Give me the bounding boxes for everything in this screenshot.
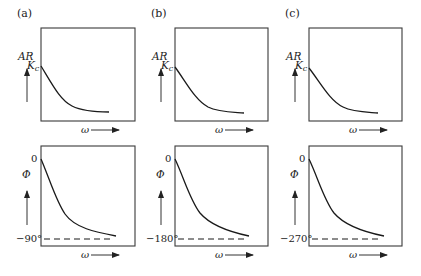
amplitude-ratio-plot: AR Kc ω [151,28,268,135]
phase-asymptote-label: −90° [16,233,42,244]
phi-axis-label: Φ [156,168,165,180]
amplitude-ratio-plot: AR Kc ω [17,28,135,135]
phase-angle-plot: 0 Φ −270° ω [280,146,402,260]
panel-b: (b) AR Kc ω 0 Φ −180° ω [146,7,268,260]
panel-a: (a) AR Kc ω 0 Φ −90° ω [16,7,135,260]
plot-frame [41,28,135,121]
phase-zero-label: 0 [165,153,171,164]
phase-angle-plot: 0 Φ −90° ω [16,146,135,260]
panel-tag: (c) [285,7,300,20]
bode-diagram-figure: (a) AR Kc ω 0 Φ −90° ω (b) [0,0,421,276]
amplitude-ratio-curve [41,66,109,112]
kc-label: Kc [26,59,40,73]
phi-axis-label: Φ [22,168,31,180]
omega-axis-label: ω [349,124,357,135]
amplitude-ratio-curve [175,67,244,113]
omega-axis-label: ω [81,249,89,260]
omega-axis-label: ω [81,124,89,135]
phase-zero-label: 0 [31,153,37,164]
omega-axis-label: ω [215,124,223,135]
kc-label: Kc [160,59,174,73]
phase-angle-plot: 0 Φ −180° ω [146,146,268,260]
amplitude-ratio-curve [309,68,378,113]
panel-tag: (b) [151,7,167,20]
phase-curve [175,159,249,236]
phase-curve [309,159,384,236]
amplitude-ratio-plot: AR Kc ω [285,28,402,135]
plot-frame [175,146,268,246]
phi-axis-label: Φ [290,168,299,180]
phase-asymptote-label: −270° [280,233,312,244]
panel-tag: (a) [17,7,32,20]
phase-curve [41,159,116,236]
plot-frame [309,28,402,121]
kc-label: Kc [294,59,308,73]
phase-zero-label: 0 [299,153,305,164]
phase-asymptote-label: −180° [146,233,178,244]
plot-frame [309,146,402,246]
omega-axis-label: ω [349,249,357,260]
panel-c: (c) AR Kc ω 0 Φ −270° ω [280,7,402,260]
plot-frame [175,28,268,121]
omega-axis-label: ω [215,249,223,260]
